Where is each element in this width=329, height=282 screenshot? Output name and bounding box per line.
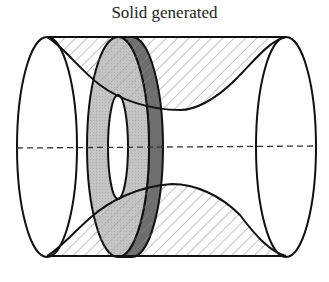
upper-hatched-region: [47, 37, 286, 110]
left-end-ellipse: [17, 37, 77, 257]
right-end-ellipse: [256, 37, 316, 257]
lower-hatched-region: [47, 184, 286, 256]
solid-diagram: [0, 0, 329, 282]
axis-of-revolution: [17, 146, 316, 148]
